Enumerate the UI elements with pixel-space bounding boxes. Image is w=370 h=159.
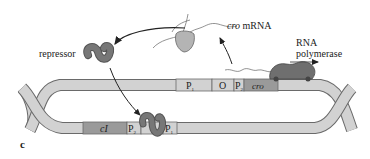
ribosome-icon <box>175 31 194 52</box>
binding-arrow <box>110 68 140 115</box>
rna-polymerase-label-line2: polymerase <box>296 48 343 59</box>
cro-mrna-label: cro mRNA <box>227 20 272 31</box>
transcript-arrow <box>220 38 232 64</box>
cro-product-arrow <box>115 28 185 44</box>
dna-double-helix <box>22 85 352 130</box>
top-strand-segments: P1 O P2 cro <box>176 79 278 92</box>
nascent-transcript <box>225 69 272 72</box>
rna-polymerase-icon <box>270 62 315 79</box>
panel-label: c <box>20 138 25 150</box>
label-cro-gene: cro <box>252 81 264 91</box>
rna-polymerase-label-line1: RNA <box>296 37 318 48</box>
label-o: O <box>219 80 226 91</box>
repressor-label: repressor <box>39 48 76 59</box>
label-ci-gene: cI <box>100 123 108 134</box>
cro-mrna-strand <box>153 23 237 48</box>
lambda-switch-diagram: P1 O P2 cro cI P2 P1 repressor cro mRNA … <box>0 0 370 159</box>
